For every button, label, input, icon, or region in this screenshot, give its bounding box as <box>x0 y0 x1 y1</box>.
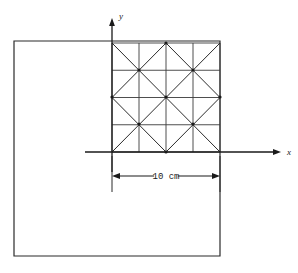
mesh-diagonal-nesw <box>166 70 193 97</box>
dimension-annotation: 10 cm <box>112 156 220 192</box>
mesh-diagonal-nesw <box>193 43 220 70</box>
x-axis-arrowhead <box>273 149 281 155</box>
mesh-diagonal-nesw <box>112 125 139 152</box>
y-axis-label: y <box>118 11 123 21</box>
mesh-diagonal-nesw <box>193 98 220 125</box>
dimension-label: 10 cm <box>152 172 179 182</box>
diagram-svg: x y 10 cm <box>0 0 298 273</box>
mesh-node-marker <box>137 68 140 71</box>
mesh-diagonal-nwse <box>166 98 193 125</box>
mesh-diagonal-nesw <box>112 70 139 97</box>
mesh-diagonal-nwse <box>193 125 220 152</box>
mesh-diagonal-nwse <box>112 43 139 70</box>
mesh-node-marker <box>218 95 221 98</box>
mesh-diagonal-nwse <box>166 43 193 70</box>
mesh-diagonal-nesw <box>166 125 193 152</box>
dimension-arrowhead-left <box>112 173 120 179</box>
outer-square-plate <box>14 41 220 256</box>
mesh-node-marker <box>191 122 194 125</box>
mesh-node-marker <box>164 41 167 44</box>
mesh-diagonal-nwse <box>193 70 220 97</box>
mesh-diagonal-nesw <box>139 98 166 125</box>
mesh-node-marker <box>191 68 194 71</box>
plate-outline <box>14 41 220 256</box>
dimension-arrowhead-right <box>212 173 220 179</box>
mesh-node-marker <box>137 122 140 125</box>
figure-canvas: x y 10 cm <box>0 0 298 273</box>
mesh-diagonal-nesw <box>139 43 166 70</box>
mesh-diagonal-nwse <box>139 125 166 152</box>
mesh-diagonal-nwse <box>139 70 166 97</box>
mesh-diagonal-nwse <box>112 98 139 125</box>
mesh-node-marker <box>164 95 167 98</box>
y-axis-arrowhead <box>109 18 115 26</box>
x-axis-label: x <box>286 147 291 157</box>
